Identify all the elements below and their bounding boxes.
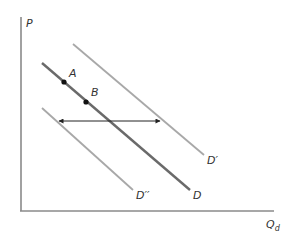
demand-shift-diagram: P Qd D′ D′′ D A B (0, 0, 294, 238)
label-point-a: A (68, 67, 77, 80)
demand-curve-d-double-prime (42, 108, 133, 190)
y-axis-label: P (26, 17, 33, 30)
point-a (61, 79, 66, 84)
x-axis-label: Qd (266, 218, 281, 233)
point-b (83, 99, 88, 104)
label-d-double-prime: D′′ (136, 189, 150, 202)
label-d: D (193, 189, 201, 202)
label-point-b: B (91, 86, 99, 99)
label-d-prime: D′ (207, 154, 218, 167)
demand-curve-d-prime (73, 44, 204, 155)
